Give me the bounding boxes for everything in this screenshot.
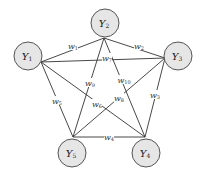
edge-label-w5: w5 [52, 96, 62, 106]
edge-label-w4: w4 [104, 132, 114, 142]
edge-label-w10: w10 [117, 75, 130, 85]
node-y1: Y1 [14, 42, 42, 70]
edge-label-w7: w7 [102, 53, 112, 63]
edge-label-w2: w2 [134, 41, 144, 51]
node-y2: Y2 [91, 9, 119, 37]
graph-diagram: w1w2w3w4w5w6w7w8w9w10 Y1Y2Y3Y4Y5 [0, 0, 201, 171]
edge-y2-y5 [73, 38, 104, 137]
edge-label-w8: w8 [114, 93, 124, 103]
node-y4: Y4 [132, 139, 160, 167]
node-y5: Y5 [58, 139, 86, 167]
edge-label-w9: w9 [85, 78, 95, 88]
edge-label-w3: w3 [150, 90, 160, 100]
node-y3: Y3 [164, 42, 192, 70]
nodes-layer: Y1Y2Y3Y4Y5 [14, 9, 192, 167]
edge-label-w6: w6 [92, 99, 102, 109]
edge-label-w1: w1 [68, 41, 78, 51]
